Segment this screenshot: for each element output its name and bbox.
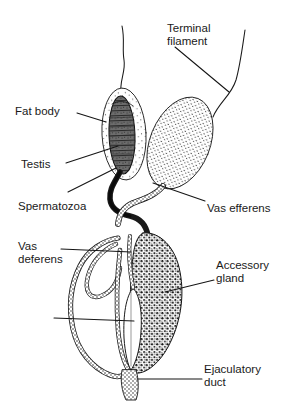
terminal-filament-strand-right — [213, 30, 245, 117]
leader-terminal-filament — [175, 47, 229, 92]
label-ejaculatory-duct: Ejaculatory duct — [204, 363, 261, 389]
label-terminal-filament: Terminal filament — [167, 22, 210, 48]
label-fat-body: Fat body — [15, 105, 60, 118]
leader-seminal-vesicle-unlabeled — [54, 318, 134, 321]
label-spermatozoa: Spermatozoa — [18, 200, 86, 213]
vas-deferens-coil — [71, 238, 130, 377]
label-testis: Testis — [21, 158, 50, 171]
leader-fat-body — [77, 113, 106, 122]
label-accessory-gland: Accessory gland — [216, 259, 269, 285]
label-vas-deferens: Vas deferens — [18, 240, 63, 266]
label-vas-efferens: Vas efferens — [207, 202, 271, 215]
terminal-filament-strand — [121, 26, 125, 96]
right-testis-lobe — [134, 87, 226, 198]
anatomical-figure: Terminal filament Fat body Testis Sperma… — [0, 0, 296, 409]
ejaculatory-duct-outlet — [121, 370, 138, 400]
